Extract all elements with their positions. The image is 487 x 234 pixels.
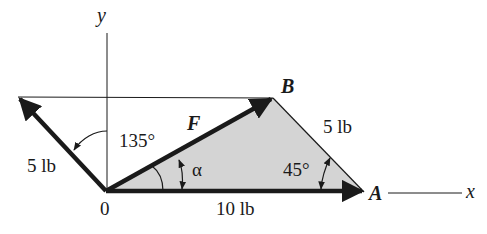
origin-label: 0 (100, 199, 110, 218)
top-line (18, 97, 273, 98)
angle-alpha-label: α (192, 160, 202, 179)
y-axis-label: y (97, 5, 106, 25)
vector-5lb-left (20, 99, 106, 191)
angle-135-arc (74, 131, 107, 150)
vector-10lb-label: 10 lb (216, 199, 255, 218)
angle-135-label: 135° (119, 131, 155, 150)
point-B-label: B (281, 76, 294, 96)
vector-5lb-left-label: 5 lb (27, 156, 56, 175)
side-BA-label: 5 lb (323, 117, 352, 136)
x-axis-label: x (466, 181, 475, 201)
vector-F-label: F (187, 113, 200, 133)
angle-45-label: 45° (283, 160, 310, 179)
point-A-label: A (369, 183, 382, 203)
